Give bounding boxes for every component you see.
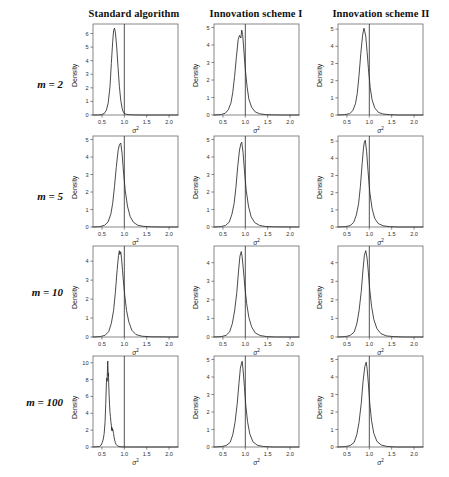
density-curve [214,142,299,227]
svg-text:3: 3 [85,71,88,77]
density-curve [93,28,178,115]
svg-text:3: 3 [330,392,333,398]
svg-text:0.5: 0.5 [343,119,351,125]
svg-text:0.5: 0.5 [343,231,351,237]
svg-text:0.5: 0.5 [98,341,106,347]
density-plot: 0.51.01.52.0012345 [190,130,309,249]
svg-text:1.5: 1.5 [388,231,396,237]
svg-text:1.5: 1.5 [143,451,151,457]
svg-text:2: 2 [330,409,333,415]
y-axis-label: Density [316,63,323,86]
density-curve [214,30,299,115]
svg-text:0: 0 [85,444,88,450]
density-plot: 0.51.01.52.0012345 [190,350,309,469]
svg-text:2.0: 2.0 [286,231,294,237]
svg-text:0.5: 0.5 [343,451,351,457]
row-label-m10: m = 10 [8,286,63,298]
y-axis-label: Density [192,175,199,198]
y-axis-label: Density [71,175,78,198]
svg-text:0.5: 0.5 [343,341,351,347]
svg-text:0: 0 [330,224,333,230]
svg-text:1.0: 1.0 [120,231,128,237]
density-plot: 0.51.01.52.0012345 [314,18,433,137]
density-panel: 0.51.01.52.0012345Densityσ2 [314,130,433,249]
svg-text:2: 2 [330,190,333,196]
svg-text:4: 4 [85,410,88,416]
svg-text:3: 3 [330,60,333,66]
svg-text:1.0: 1.0 [241,451,249,457]
svg-text:2: 2 [206,189,209,195]
density-plot: 0.51.01.52.001234 [314,240,433,359]
svg-text:2.0: 2.0 [410,231,418,237]
density-panel: 0.51.01.52.00246810Densityσ2 [69,350,188,469]
svg-text:0: 0 [85,334,88,340]
svg-text:1: 1 [206,95,209,101]
svg-text:2.0: 2.0 [286,451,294,457]
y-axis-label: Density [71,285,78,308]
svg-text:1.0: 1.0 [120,119,128,125]
density-curve [93,361,178,447]
x-axis-label: σ2 [214,458,299,466]
y-axis-label: Density [71,63,78,86]
density-curve [214,252,299,337]
svg-text:2.0: 2.0 [165,451,173,457]
svg-text:1.0: 1.0 [365,231,373,237]
svg-text:5: 5 [330,26,333,32]
svg-text:2.0: 2.0 [165,341,173,347]
svg-text:0.5: 0.5 [98,451,106,457]
svg-text:1: 1 [330,427,333,433]
svg-text:4: 4 [85,58,88,64]
svg-text:10: 10 [82,360,88,366]
svg-text:2: 2 [85,189,88,195]
svg-text:0: 0 [206,334,209,340]
svg-text:3: 3 [206,60,209,66]
density-plot: 0.51.01.52.001234 [69,240,188,359]
density-plot: 0.51.01.52.0012345 [190,18,309,137]
svg-text:1: 1 [206,207,209,213]
svg-text:3: 3 [330,278,333,284]
svg-text:1.5: 1.5 [388,451,396,457]
svg-text:6: 6 [85,393,88,399]
svg-text:4: 4 [330,374,333,380]
svg-text:1.5: 1.5 [143,231,151,237]
svg-text:3: 3 [330,172,333,178]
x-axis-label: σ2 [338,458,423,466]
svg-text:1: 1 [330,207,333,213]
density-panel: 0.51.01.52.001234Densityσ2 [190,240,309,359]
svg-text:5: 5 [206,25,209,31]
svg-text:0: 0 [85,224,88,230]
density-panel: 0.51.01.52.0012345Densityσ2 [190,350,309,469]
svg-text:5: 5 [85,137,88,143]
svg-text:1.5: 1.5 [143,119,151,125]
svg-text:1.5: 1.5 [264,341,272,347]
svg-text:2.0: 2.0 [165,231,173,237]
svg-text:1: 1 [330,315,333,321]
svg-text:4: 4 [330,43,333,49]
svg-text:4: 4 [206,260,209,266]
svg-text:2: 2 [206,297,209,303]
svg-text:1: 1 [206,427,209,433]
svg-text:2.0: 2.0 [165,119,173,125]
svg-text:1: 1 [85,207,88,213]
svg-text:1: 1 [206,315,209,321]
svg-text:5: 5 [330,138,333,144]
svg-text:2: 2 [85,296,88,302]
density-panel: 0.51.01.52.00123456Densityσ2 [69,18,188,137]
svg-text:2: 2 [330,297,333,303]
svg-text:1.5: 1.5 [143,341,151,347]
svg-text:3: 3 [85,172,88,178]
svg-text:1.0: 1.0 [241,341,249,347]
svg-text:8: 8 [85,377,88,383]
svg-text:0: 0 [330,444,333,450]
svg-text:0.5: 0.5 [98,119,106,125]
svg-text:5: 5 [206,137,209,143]
svg-text:2: 2 [85,427,88,433]
density-curve [338,362,423,447]
density-panel: 0.51.01.52.0012345Densityσ2 [314,18,433,137]
svg-text:1.0: 1.0 [365,451,373,457]
density-plot: 0.51.01.52.0012345 [314,130,433,249]
svg-text:3: 3 [85,277,88,283]
svg-text:0: 0 [206,444,209,450]
svg-text:4: 4 [206,42,209,48]
svg-text:2.0: 2.0 [286,341,294,347]
